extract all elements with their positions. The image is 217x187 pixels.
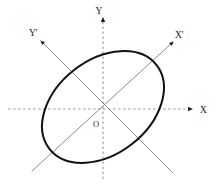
x-axis-label: X — [200, 105, 207, 115]
y-axis-label: Y — [96, 6, 103, 16]
origin-label: O — [93, 119, 99, 129]
x-prime-axis-label: X' — [175, 30, 184, 40]
y-prime-axis-label: Y' — [29, 28, 38, 38]
figure-canvas: Y X X' Y' O — [0, 0, 217, 187]
ellipse-rotated-axes-diagram: Y X X' Y' O — [0, 0, 217, 187]
